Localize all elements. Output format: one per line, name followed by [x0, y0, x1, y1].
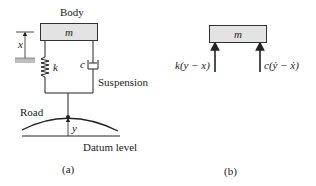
damper-label: c [80, 59, 85, 70]
contact-point [66, 115, 70, 119]
y-label: y [72, 123, 77, 134]
x-label: x [18, 39, 23, 50]
datum-label: Datum level [83, 142, 137, 153]
damper-icon [88, 40, 98, 93]
mass-block-a: m [40, 23, 98, 41]
spring-force-label: k(y − x) [175, 60, 210, 71]
spring-label: k [53, 62, 58, 73]
suspension-label: Suspension [98, 77, 148, 88]
damper-force-label: c(ẏ − ẋ) [264, 60, 299, 71]
suspension-frame [45, 93, 93, 116]
mass-block-b: m [209, 25, 267, 43]
road-curve [22, 118, 118, 131]
mass-label-b: m [234, 28, 242, 40]
ground-hatch [15, 58, 35, 63]
caption-a: (a) [62, 164, 74, 175]
body-label: Body [60, 7, 84, 18]
mass-label-a: m [65, 26, 73, 38]
spring-icon [41, 40, 49, 93]
caption-b: (b) [224, 166, 237, 177]
road-label: Road [20, 107, 43, 118]
